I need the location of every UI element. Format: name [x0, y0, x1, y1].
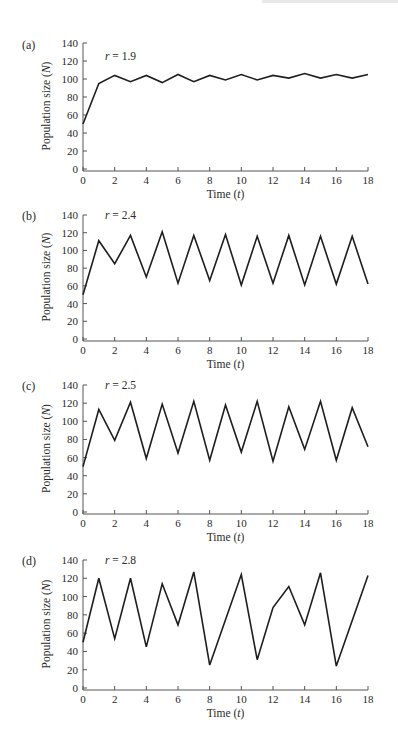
y-axis-label: Population size (N)	[40, 232, 53, 321]
x-tick-label: 0	[80, 344, 86, 356]
y-tick-label: 140	[62, 37, 79, 49]
x-tick-label: 8	[207, 344, 213, 356]
y-tick-label: 100	[62, 415, 79, 427]
x-tick-label: 18	[363, 174, 375, 186]
y-tick-label: 80	[67, 433, 79, 445]
y-tick-label: 0	[73, 333, 79, 345]
x-tick-label: 8	[207, 693, 213, 705]
y-axis-label: Population size (N)	[40, 579, 53, 668]
x-tick-label: 8	[207, 517, 213, 529]
growth-rate-annotation: r = 2.5	[105, 379, 136, 391]
x-tick-label: 2	[112, 174, 118, 186]
y-tick-label: 60	[67, 452, 79, 464]
y-tick-label: 0	[73, 506, 79, 518]
x-tick-label: 16	[331, 344, 343, 356]
y-tick-label: 20	[67, 145, 79, 157]
x-tick-label: 6	[175, 517, 181, 529]
y-tick-label: 120	[62, 572, 79, 584]
x-tick-label: 10	[236, 693, 248, 705]
chart-0: 020406080100120140024681012141618Time (t…	[40, 37, 374, 201]
y-tick-label: 120	[62, 55, 79, 67]
x-tick-label: 0	[80, 693, 86, 705]
x-tick-label: 4	[144, 174, 150, 186]
x-tick-label: 8	[207, 174, 213, 186]
y-tick-label: 60	[67, 627, 79, 639]
x-tick-label: 2	[112, 517, 118, 529]
x-tick-label: 14	[299, 693, 311, 705]
charts-canvas: 020406080100120140024681012141618Time (t…	[0, 0, 398, 755]
x-tick-label: 14	[299, 517, 311, 529]
population-line	[83, 232, 368, 295]
y-tick-label: 60	[67, 109, 79, 121]
y-tick-label: 100	[62, 244, 79, 256]
x-tick-label: 18	[363, 517, 375, 529]
x-tick-label: 10	[236, 174, 248, 186]
y-tick-label: 120	[62, 227, 79, 239]
y-tick-label: 140	[62, 209, 79, 221]
chart-2: 020406080100120140024681012141618Time (t…	[40, 379, 374, 544]
x-tick-label: 16	[331, 517, 343, 529]
y-tick-label: 40	[67, 470, 79, 482]
y-tick-label: 40	[67, 127, 79, 139]
growth-rate-annotation: r = 2.8	[105, 554, 136, 566]
y-tick-label: 20	[67, 315, 79, 327]
y-tick-label: 0	[73, 163, 79, 175]
x-axis-label: Time (t)	[207, 531, 245, 544]
chart-3: 020406080100120140024681012141618Time (t…	[40, 554, 374, 720]
y-tick-label: 80	[67, 609, 79, 621]
growth-rate-annotation: r = 2.4	[105, 209, 136, 221]
x-tick-label: 14	[299, 174, 311, 186]
x-tick-label: 16	[331, 693, 343, 705]
x-tick-label: 2	[112, 693, 118, 705]
x-tick-label: 12	[268, 174, 279, 186]
x-tick-label: 10	[236, 517, 248, 529]
x-tick-label: 4	[144, 344, 150, 356]
x-tick-label: 16	[331, 174, 343, 186]
x-axis-label: Time (t)	[207, 707, 245, 720]
x-axis-label: Time (t)	[207, 358, 245, 371]
y-tick-label: 20	[67, 488, 79, 500]
y-tick-label: 100	[62, 591, 79, 603]
y-tick-label: 120	[62, 397, 79, 409]
y-tick-label: 0	[73, 682, 79, 694]
x-tick-label: 6	[175, 174, 181, 186]
y-tick-label: 20	[67, 664, 79, 676]
x-tick-label: 12	[268, 693, 279, 705]
y-tick-label: 80	[67, 262, 79, 274]
x-tick-label: 18	[363, 693, 375, 705]
x-axis-label: Time (t)	[207, 188, 245, 201]
y-tick-label: 140	[62, 379, 79, 391]
y-tick-label: 100	[62, 73, 79, 85]
x-tick-label: 4	[144, 693, 150, 705]
population-line	[83, 572, 368, 666]
y-tick-label: 40	[67, 645, 79, 657]
x-tick-label: 6	[175, 693, 181, 705]
population-line	[83, 401, 368, 466]
y-axis-label: Population size (N)	[40, 404, 53, 493]
population-line	[83, 74, 368, 124]
chart-1: 020406080100120140024681012141618Time (t…	[40, 209, 374, 371]
y-axis-label: Population size (N)	[40, 61, 53, 150]
x-tick-label: 6	[175, 344, 181, 356]
x-tick-label: 10	[236, 344, 248, 356]
x-tick-label: 12	[268, 517, 279, 529]
y-tick-label: 80	[67, 91, 79, 103]
x-tick-label: 4	[144, 517, 150, 529]
x-tick-label: 14	[299, 344, 311, 356]
x-tick-label: 12	[268, 344, 279, 356]
y-tick-label: 140	[62, 554, 79, 566]
x-tick-label: 0	[80, 517, 86, 529]
y-tick-label: 60	[67, 280, 79, 292]
x-tick-label: 2	[112, 344, 118, 356]
x-tick-label: 0	[80, 174, 86, 186]
growth-rate-annotation: r = 1.9	[105, 50, 136, 62]
x-tick-label: 18	[363, 344, 375, 356]
y-tick-label: 40	[67, 298, 79, 310]
